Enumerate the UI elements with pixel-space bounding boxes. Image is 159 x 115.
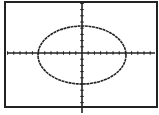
calculator-graph-screen [0, 0, 159, 115]
axes [7, 2, 155, 113]
ellipse-graph [0, 0, 159, 115]
graph-frame [5, 2, 157, 107]
